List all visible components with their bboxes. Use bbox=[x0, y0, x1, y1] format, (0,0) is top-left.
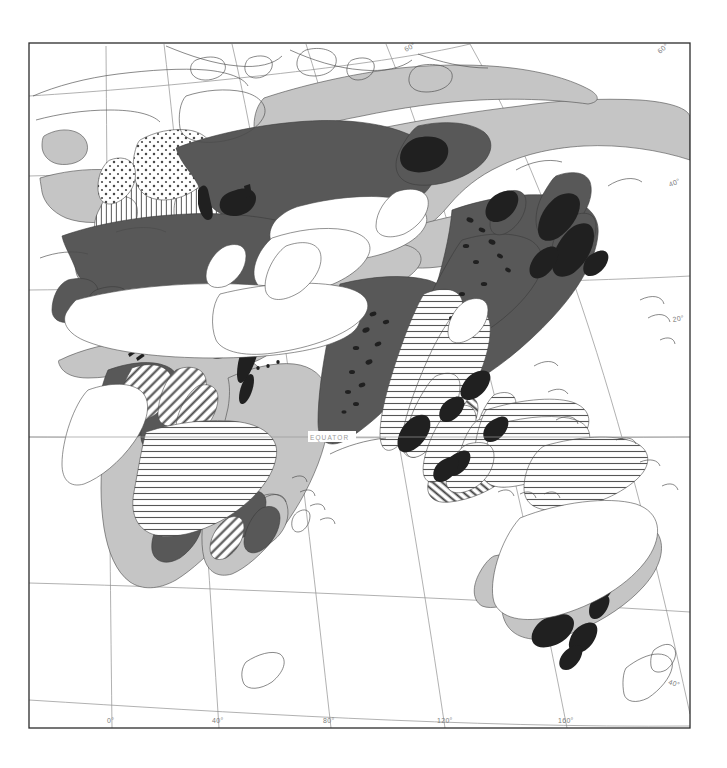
lon-label-120: 120° bbox=[437, 717, 453, 724]
population-density-map: 0° 40° 80° 120° 160° 60° 60° 40° 20° 40°… bbox=[0, 0, 727, 768]
lon-label-160: 160° bbox=[558, 717, 574, 724]
lon-label-80: 80° bbox=[323, 717, 335, 724]
equator-label: EQUATOR bbox=[310, 434, 349, 442]
lon-label-0: 0° bbox=[107, 717, 114, 724]
lon-label-40: 40° bbox=[212, 717, 224, 724]
map-canvas: 0° 40° 80° 120° 160° 60° 60° 40° 20° 40°… bbox=[0, 0, 727, 768]
